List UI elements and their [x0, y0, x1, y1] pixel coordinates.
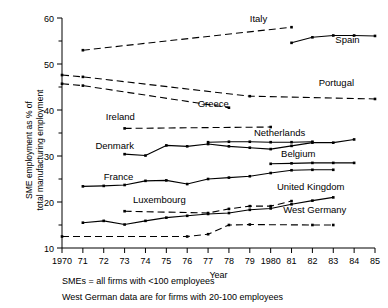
y-axis-title-line1: SME employment as % of — [24, 100, 34, 198]
data-point-marker — [353, 162, 356, 165]
footnote-west-german-data: West German data are for firms with 20-1… — [62, 292, 283, 302]
data-point-marker — [228, 140, 231, 143]
data-point-marker — [228, 208, 231, 211]
series-label-spain: Spain — [335, 34, 359, 45]
data-point-marker — [61, 82, 64, 85]
y-axis-tick-label: 10 — [44, 244, 54, 254]
x-axis: 197071727374757677787919808182838485 — [52, 248, 380, 266]
sme-employment-line-chart: 102030405060 197071727374757677787919808… — [0, 0, 388, 308]
data-point-marker — [207, 212, 210, 215]
data-point-marker — [228, 212, 231, 215]
data-point-marker — [228, 224, 231, 227]
data-point-marker — [123, 184, 126, 187]
chart-container: 102030405060 197071727374757677787919808… — [0, 0, 388, 308]
data-point-marker — [207, 178, 210, 181]
data-point-marker — [82, 76, 85, 79]
data-point-marker — [249, 209, 252, 212]
data-point-marker — [290, 42, 293, 45]
data-point-marker — [102, 185, 105, 188]
y-axis-tick-label: 50 — [44, 60, 54, 70]
data-point-marker — [290, 169, 293, 172]
data-point-marker — [207, 143, 210, 146]
data-point-marker — [102, 220, 105, 223]
data-point-marker — [332, 141, 335, 144]
series-line-west-germany — [62, 225, 333, 237]
data-point-marker — [186, 235, 189, 238]
x-axis-tick-label: 82 — [307, 256, 317, 266]
data-point-marker — [269, 172, 272, 175]
data-point-marker — [207, 233, 210, 236]
y-axis-tick-label: 30 — [44, 152, 54, 162]
data-point-marker — [269, 148, 272, 151]
series-line-ireland — [125, 127, 271, 128]
data-point-marker — [228, 176, 231, 179]
data-point-marker — [311, 199, 314, 202]
data-point-marker — [61, 235, 64, 238]
series-label-denmark: Denmark — [95, 140, 134, 151]
data-point-marker — [332, 162, 335, 165]
x-axis-tick-label: 83 — [328, 256, 338, 266]
data-point-marker — [332, 34, 335, 37]
data-point-marker — [311, 224, 314, 227]
data-point-marker — [228, 145, 231, 148]
data-point-marker — [82, 221, 85, 224]
data-point-marker — [82, 84, 85, 87]
series-label-netherlands: Netherlands — [254, 127, 305, 138]
x-axis-tick-label: 74 — [140, 256, 150, 266]
series-label-italy: Italy — [250, 13, 268, 24]
y-axis-tick-label: 60 — [44, 14, 54, 24]
data-point-marker — [165, 144, 168, 147]
x-axis-tick-label: 1980 — [261, 256, 281, 266]
y-axis: 102030405060 — [44, 14, 62, 254]
data-point-marker — [144, 180, 147, 183]
series-label-belgium: Belgium — [281, 148, 315, 159]
x-axis-tick-label: 72 — [99, 256, 109, 266]
y-axis-tick-label: 40 — [44, 106, 54, 116]
data-point-marker — [290, 26, 293, 29]
data-point-marker — [332, 196, 335, 199]
data-point-marker — [311, 169, 314, 172]
data-point-marker — [332, 169, 335, 172]
data-point-marker — [123, 210, 126, 213]
data-point-marker — [332, 224, 335, 227]
data-point-marker — [290, 200, 293, 203]
data-point-marker — [165, 179, 168, 182]
data-point-marker — [144, 154, 147, 157]
series-label-greece: Greece — [198, 98, 229, 109]
x-axis-tick-label: 1970 — [52, 256, 72, 266]
y-axis-title-line2: total manufacturing employment — [35, 89, 45, 211]
data-point-marker — [123, 127, 126, 130]
data-point-marker — [269, 205, 272, 208]
series-label-portugal: Portugal — [319, 77, 354, 88]
data-point-marker — [311, 141, 314, 144]
data-point-marker — [144, 220, 147, 223]
data-point-marker — [123, 223, 126, 226]
data-point-marker — [269, 207, 272, 210]
series-label-france: France — [104, 171, 134, 182]
series-label-united-kingdom: United Kingdom — [277, 181, 345, 192]
x-axis-tick-label: 84 — [349, 256, 359, 266]
data-point-marker — [290, 145, 293, 148]
data-point-marker — [186, 145, 189, 148]
data-point-marker — [249, 95, 252, 98]
x-axis-tick-label: 79 — [245, 256, 255, 266]
x-axis-tick-label: 75 — [161, 256, 171, 266]
data-point-marker — [249, 205, 252, 208]
series-line-italy — [83, 27, 292, 50]
data-point-marker — [82, 49, 85, 52]
x-axis-tick-label: 81 — [287, 256, 297, 266]
data-point-marker — [269, 163, 272, 166]
data-point-marker — [249, 223, 252, 226]
series-labels-layer: ItalySpainPortugalGreeceIrelandNetherlan… — [95, 13, 359, 215]
data-point-marker — [249, 140, 252, 143]
data-point-marker — [311, 36, 314, 39]
x-axis-tick-label: 78 — [224, 256, 234, 266]
x-axis-tick-label: 77 — [203, 256, 213, 266]
footnote-smes-definition: SMEs = all firms with <100 employees — [62, 276, 215, 286]
data-point-marker — [249, 146, 252, 149]
series-label-luxembourg: Luxembourg — [133, 194, 186, 205]
series-label-west-germany: West Germany — [283, 204, 346, 215]
x-axis-tick-label: 71 — [78, 256, 88, 266]
data-point-marker — [165, 216, 168, 219]
data-point-marker — [290, 162, 293, 165]
